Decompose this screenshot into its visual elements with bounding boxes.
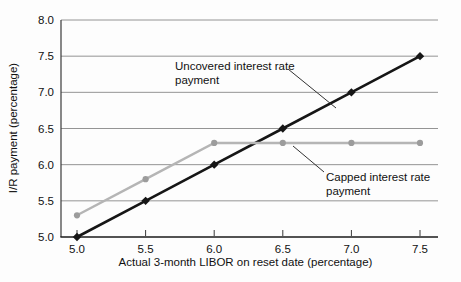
y-tick-label: 8.0 <box>38 14 54 26</box>
data-point-marker <box>280 140 286 146</box>
x-tick-label: 7.5 <box>412 243 428 255</box>
chart-svg: 5.05.56.06.57.07.55.05.56.06.57.07.58.0A… <box>0 0 461 282</box>
y-tick-label: 5.5 <box>38 195 54 207</box>
annotation-leader-uncovered <box>288 69 336 108</box>
data-point-marker <box>348 140 354 146</box>
x-tick-label: 7.0 <box>343 243 359 255</box>
x-tick-label: 6.5 <box>275 243 291 255</box>
data-point-marker <box>211 140 217 146</box>
data-point-marker <box>417 140 423 146</box>
y-tick-label: 7.5 <box>38 50 54 62</box>
data-point-marker <box>143 176 149 182</box>
series-line-uncovered <box>77 56 420 237</box>
annotation-capped-line2: payment <box>326 185 371 197</box>
x-tick-label: 6.0 <box>206 243 222 255</box>
y-tick-label: 6.5 <box>38 123 54 135</box>
annotation-uncovered-line2: payment <box>175 74 220 86</box>
y-tick-label: 5.0 <box>38 231 54 243</box>
y-tick-label: 7.0 <box>38 86 54 98</box>
interest-rate-chart-figure: 5.05.56.06.57.07.55.05.56.06.57.07.58.0A… <box>0 0 461 282</box>
annotation-leader-capped <box>293 146 324 172</box>
data-point-marker <box>74 212 80 218</box>
y-tick-label: 6.0 <box>38 159 54 171</box>
y-axis-title: I/R payment (percentage) <box>7 63 19 194</box>
annotation-uncovered-line1: Uncovered interest rate <box>175 60 295 72</box>
x-axis-title: Actual 3-month LIBOR on reset date (perc… <box>119 256 373 268</box>
x-tick-label: 5.5 <box>138 243 154 255</box>
annotation-capped-line1: Capped interest rate <box>326 171 430 183</box>
x-tick-label: 5.0 <box>69 243 85 255</box>
